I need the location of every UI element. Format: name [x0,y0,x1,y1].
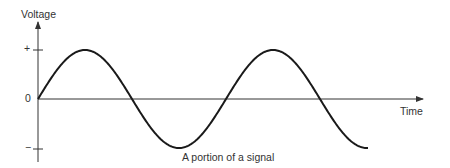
tick-label-plus: + [24,42,30,54]
tick-label-zero: 0 [25,92,31,104]
x-axis-label: Time [400,105,423,117]
chart-caption: A portion of a signal [182,151,274,163]
tick-label-minus: − [25,141,31,153]
y-axis-label: Voltage [21,8,56,20]
signal-chart [0,0,450,168]
